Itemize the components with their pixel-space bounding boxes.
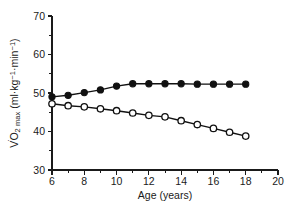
y-axis-title-mid: ·min — [8, 50, 20, 71]
data-point-marker — [178, 118, 184, 124]
data-point-marker — [162, 81, 168, 87]
x-tick-label: 14 — [175, 175, 187, 187]
x-tick-label: 16 — [208, 175, 220, 187]
data-point-marker — [194, 121, 200, 127]
data-point-marker — [49, 94, 55, 100]
x-tick-label: 12 — [143, 175, 155, 187]
y-axis-title-sup2: −1 — [8, 42, 17, 51]
y-tick-label: 30 — [33, 164, 45, 176]
data-point-marker — [81, 104, 87, 110]
x-axis-tick-labels: 68101214161820 — [49, 175, 284, 187]
y-axis-title-v: V — [8, 141, 20, 148]
x-axis-ticks — [52, 170, 278, 175]
y-axis-title-sup1: −1 — [8, 71, 17, 80]
chart-plot-area: 3040506070 68101214161820 Age (years) V̇… — [0, 0, 306, 214]
data-point-marker — [146, 81, 152, 87]
data-point-marker — [130, 110, 136, 116]
data-point-marker — [97, 106, 103, 112]
x-tick-label: 8 — [81, 175, 87, 187]
y-axis-title-close-paren: ) — [8, 38, 20, 42]
data-point-marker — [97, 87, 103, 93]
x-tick-label: 18 — [240, 175, 252, 187]
data-point-marker — [226, 81, 232, 87]
y-tick-label: 60 — [33, 48, 45, 60]
y-axis-title-open-paren: (ml·kg — [8, 79, 20, 111]
data-point-marker — [130, 81, 136, 87]
y-axis-title: V̇O2 max (ml·kg−1·min−1) — [8, 38, 23, 147]
series-boys — [49, 81, 249, 100]
data-point-marker — [243, 133, 249, 139]
y-axis-title-o: O — [8, 132, 20, 140]
series-girls — [49, 101, 249, 140]
data-point-marker — [243, 81, 249, 87]
y-axis-tick-labels: 3040506070 — [33, 10, 45, 176]
data-point-marker — [162, 114, 168, 120]
y-tick-label: 40 — [33, 125, 45, 137]
y-tick-label: 70 — [33, 10, 45, 22]
x-tick-label: 10 — [111, 175, 123, 187]
data-point-marker — [113, 108, 119, 114]
data-point-marker — [49, 101, 55, 107]
y-axis-title-max: max — [13, 112, 22, 129]
y-tick-label: 50 — [33, 87, 45, 99]
data-point-marker — [81, 90, 87, 96]
x-tick-label: 20 — [272, 175, 284, 187]
chart-figure: 3040506070 68101214161820 Age (years) V̇… — [0, 0, 306, 214]
x-axis-title: Age (years) — [138, 189, 192, 201]
data-point-marker — [210, 81, 216, 87]
data-point-marker — [226, 129, 232, 135]
data-point-marker — [146, 112, 152, 118]
data-series-group — [49, 81, 249, 140]
data-point-marker — [65, 92, 71, 98]
y-axis-ticks — [48, 16, 53, 170]
svg-text:V̇O2 max (ml·kg−1·min−1): V̇O2 max (ml·kg−1·min−1) — [8, 38, 23, 147]
data-point-marker — [178, 81, 184, 87]
data-point-marker — [113, 83, 119, 89]
data-point-marker — [65, 103, 71, 109]
data-point-marker — [194, 81, 200, 87]
data-point-marker — [210, 125, 216, 131]
x-tick-label: 6 — [49, 175, 55, 187]
